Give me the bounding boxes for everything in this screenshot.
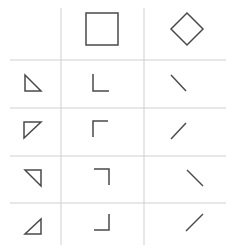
corner-bottom-left-icon [93, 74, 109, 91]
corner-top-right-icon [94, 169, 109, 185]
diagonal-ascending-icon [186, 214, 203, 231]
row-1 [25, 74, 186, 91]
diamond-icon [171, 13, 203, 45]
diagonal-ascending-icon [171, 123, 186, 139]
triangle-right-angle-top-left-icon [24, 122, 41, 138]
shape-rows [24, 74, 203, 234]
square-icon [86, 13, 118, 45]
triangle-right-angle-top-right-icon [25, 170, 41, 186]
corner-bottom-right-icon [94, 214, 109, 230]
triangle-right-angle-bottom-right-icon [25, 219, 41, 234]
diagonal-descending-icon [171, 75, 186, 91]
triangle-right-angle-bottom-left-icon [25, 75, 41, 91]
row-3 [25, 169, 203, 186]
row-4 [25, 214, 203, 234]
row-2 [24, 121, 186, 139]
shape-grid-diagram [0, 0, 232, 249]
diagonal-descending-icon [187, 170, 203, 186]
corner-top-left-icon [93, 121, 108, 137]
